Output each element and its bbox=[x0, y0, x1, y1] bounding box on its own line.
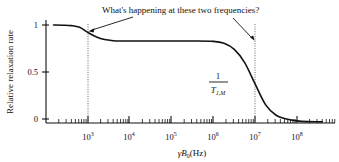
y-tick-label-0: 0 bbox=[34, 114, 38, 124]
rate-label-denominator-subscript: 1,M bbox=[216, 90, 227, 96]
x-axis-title-units: (Hz) bbox=[190, 148, 207, 158]
x-tick-mantissa-1e8: 10 bbox=[291, 132, 300, 142]
x-tick-exponent-1e5: 5 bbox=[174, 131, 177, 137]
x-tick-exponent-1e6: 6 bbox=[216, 131, 219, 137]
relaxation-rate-figure: 1 0.5 0 Relative relaxation rate 103 104… bbox=[0, 0, 339, 162]
x-axis-title: γB0(Hz) bbox=[178, 148, 207, 159]
x-tick-mantissa-1e4: 10 bbox=[123, 132, 132, 142]
y-axis-title: Relative relaxation rate bbox=[5, 30, 15, 114]
y-tick-label-0point5: 0.5 bbox=[27, 67, 38, 77]
x-tick-mantissa-1e7: 10 bbox=[249, 132, 258, 142]
x-tick-exponent-1e3: 3 bbox=[91, 131, 94, 137]
x-tick-mantissa-1e6: 10 bbox=[207, 132, 216, 142]
x-tick-mantissa-1e5: 10 bbox=[165, 132, 174, 142]
x-tick-exponent-1e8: 8 bbox=[300, 131, 303, 137]
x-tick-mantissa-1e3: 10 bbox=[82, 132, 91, 142]
x-tick-exponent-1e4: 4 bbox=[132, 131, 135, 137]
rate-label-numerator: 1 bbox=[216, 71, 221, 81]
chart-canvas: 1 0.5 0 Relative relaxation rate 103 104… bbox=[0, 0, 339, 162]
y-tick-label-1: 1 bbox=[34, 20, 38, 30]
question-annotation-text: What's happening at these two frequencie… bbox=[102, 5, 259, 15]
x-tick-exponent-1e7: 7 bbox=[258, 131, 261, 137]
